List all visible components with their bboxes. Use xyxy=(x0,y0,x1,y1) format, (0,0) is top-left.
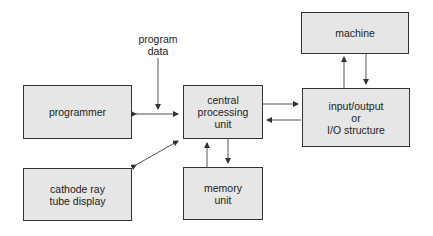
cpu-label: central processing unit xyxy=(198,94,249,130)
crt-label: cathode ray tube display xyxy=(49,183,105,207)
programmer-block: programmer xyxy=(23,85,132,139)
io-label: input/output or I/O structure xyxy=(327,100,385,136)
machine-block: machine xyxy=(301,12,409,54)
memory-block: memory unit xyxy=(183,167,263,220)
program-data-label: program data xyxy=(133,33,183,57)
crt-block: cathode ray tube display xyxy=(23,168,132,221)
machine-label: machine xyxy=(335,27,375,39)
programmer-label: programmer xyxy=(49,106,106,118)
arrow-crt-cpu xyxy=(136,141,178,165)
memory-label: memory unit xyxy=(204,182,242,206)
io-block: input/output or I/O structure xyxy=(302,88,410,147)
cpu-block: central processing unit xyxy=(183,85,263,139)
